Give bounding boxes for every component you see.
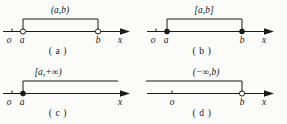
axis-label-c: x xyxy=(117,97,123,107)
right-endpoint-label-d: b xyxy=(240,97,245,107)
endpoint-marker-c-left xyxy=(21,91,26,96)
panel-caption-c: ( c ) xyxy=(49,108,67,119)
axis-arrowhead-c xyxy=(120,90,130,96)
panel-b-diagram: [a,b] o a b x ( b ) xyxy=(144,0,287,62)
left-endpoint-label-c: a xyxy=(20,97,25,107)
axis-label-b: x xyxy=(261,35,267,45)
origin-label-d: o xyxy=(170,97,175,107)
axis-arrowhead-d xyxy=(264,90,274,96)
interval-label-b: [a,b] xyxy=(194,5,214,15)
panel-caption-d: ( d ) xyxy=(193,108,212,119)
axis-arrowhead-a xyxy=(120,28,130,34)
panel-b-closed-interval: [a,b] o a b x ( b ) xyxy=(144,0,287,62)
interval-ray-d xyxy=(146,81,242,93)
interval-ray-c xyxy=(23,81,118,93)
left-endpoint-label-a: a xyxy=(20,35,25,45)
endpoint-marker-a-left xyxy=(20,29,25,34)
panel-c-diagram: [a,+∞) o a x ( c ) xyxy=(0,62,143,124)
interval-bracket-b xyxy=(167,19,242,31)
endpoint-marker-b-right xyxy=(240,29,245,34)
right-endpoint-label-a: b xyxy=(96,35,101,45)
interval-label-c: [a,+∞) xyxy=(34,67,61,78)
endpoint-marker-a-right xyxy=(95,29,100,34)
panel-caption-a: ( a ) xyxy=(49,46,67,57)
interval-label-a: (a,b) xyxy=(51,5,69,16)
origin-label-c: o xyxy=(7,97,12,107)
right-endpoint-label-b: b xyxy=(240,35,245,45)
endpoint-marker-b-left xyxy=(165,29,170,34)
axis-arrowhead-b xyxy=(264,28,274,34)
panel-d-diagram: (−∞,b) o b x ( d ) xyxy=(144,62,287,124)
endpoint-marker-d-right xyxy=(239,91,244,96)
origin-label-b: o xyxy=(151,35,156,45)
left-endpoint-label-b: a xyxy=(164,35,169,45)
panel-d-left-unbounded-interval: (−∞,b) o b x ( d ) xyxy=(144,62,287,124)
origin-label-a: o xyxy=(7,35,12,45)
panel-a-open-interval: (a,b) o a b x ( a ) xyxy=(0,0,143,62)
interval-bracket-a xyxy=(23,19,98,31)
axis-label-d: x xyxy=(261,97,267,107)
interval-label-d: (−∞,b) xyxy=(193,67,220,78)
panel-a-diagram: (a,b) o a b x ( a ) xyxy=(0,0,143,62)
panel-caption-b: ( b ) xyxy=(193,46,212,57)
axis-label-a: x xyxy=(117,35,123,45)
interval-notation-figure: (a,b) o a b x ( a ) [a,b] xyxy=(0,0,287,124)
panel-c-right-unbounded-interval: [a,+∞) o a x ( c ) xyxy=(0,62,143,124)
